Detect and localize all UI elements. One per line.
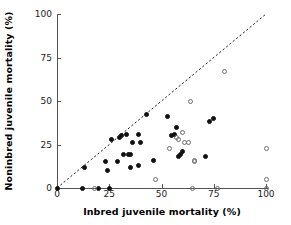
x-tick-label: 75 [199,189,229,199]
data-point-filled [55,186,60,191]
y-tick-label: 0 [28,183,52,194]
data-point-filled [180,149,185,154]
data-point-open [167,146,172,151]
data-point-filled [124,132,129,137]
data-point-filled [107,186,112,191]
data-point-open [264,146,269,151]
data-point-open [264,177,269,182]
data-point-open [264,186,269,191]
data-point-filled [174,125,179,130]
data-point-filled [151,158,156,163]
y-tick-label: 25 [28,140,52,151]
data-point-open [190,186,195,191]
x-tick-label: 100 [251,189,281,199]
data-point-open [176,137,181,142]
data-point-open [180,130,185,135]
y-tick-label: 75 [28,53,52,64]
data-point-open [222,69,227,74]
data-point-open [188,99,193,104]
data-point-filled [136,163,141,168]
x-tick-label: 25 [94,189,124,199]
data-point-filled [105,168,110,173]
x-tick-label: 50 [147,189,177,199]
data-point-filled [136,132,141,137]
plot-area [57,14,266,188]
y-tick-label: 100 [28,9,52,20]
x-axis-title: Inbred juvenile mortality (%) [57,205,267,219]
data-point-filled [96,186,101,191]
y-axis-title: Noninbred juvenile mortality (%) [2,6,16,196]
data-point-filled [109,137,114,142]
scatter-plot-figure: Noninbred juvenile mortality (%) Inbred … [0,0,291,225]
data-point-open [153,177,158,182]
data-point-open [92,186,97,191]
y-tick-label: 50 [28,96,52,107]
data-point-filled [128,165,133,170]
data-point-open [215,186,220,191]
data-point-filled [82,165,87,170]
data-point-filled [80,186,85,191]
